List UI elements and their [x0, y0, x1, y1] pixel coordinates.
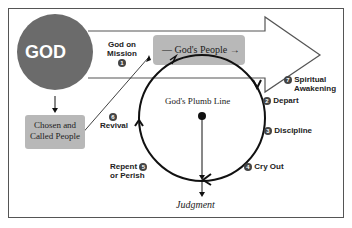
mission-label: God on Mission 1: [104, 40, 140, 67]
plumb-line-label: God's Plumb Line: [165, 96, 230, 107]
judgment-label: Judgment: [176, 200, 215, 209]
step-6: 6 Revival: [100, 112, 126, 130]
gods-people-label: — God's People →: [162, 44, 240, 56]
diagram-graphics: [0, 0, 352, 228]
step-7: 7 Spiritual Awakening: [284, 75, 336, 93]
step-5: Repent 5 or Perish: [110, 162, 147, 180]
step-4: 4 Cry Out: [244, 162, 284, 171]
god-label: GOD: [25, 42, 66, 62]
step-2: 2 Depart: [263, 96, 299, 105]
chosen-label: Chosen and Called People: [26, 120, 84, 142]
step-3: 3 Discipline: [264, 126, 312, 135]
step-number-1: 1: [118, 59, 126, 67]
